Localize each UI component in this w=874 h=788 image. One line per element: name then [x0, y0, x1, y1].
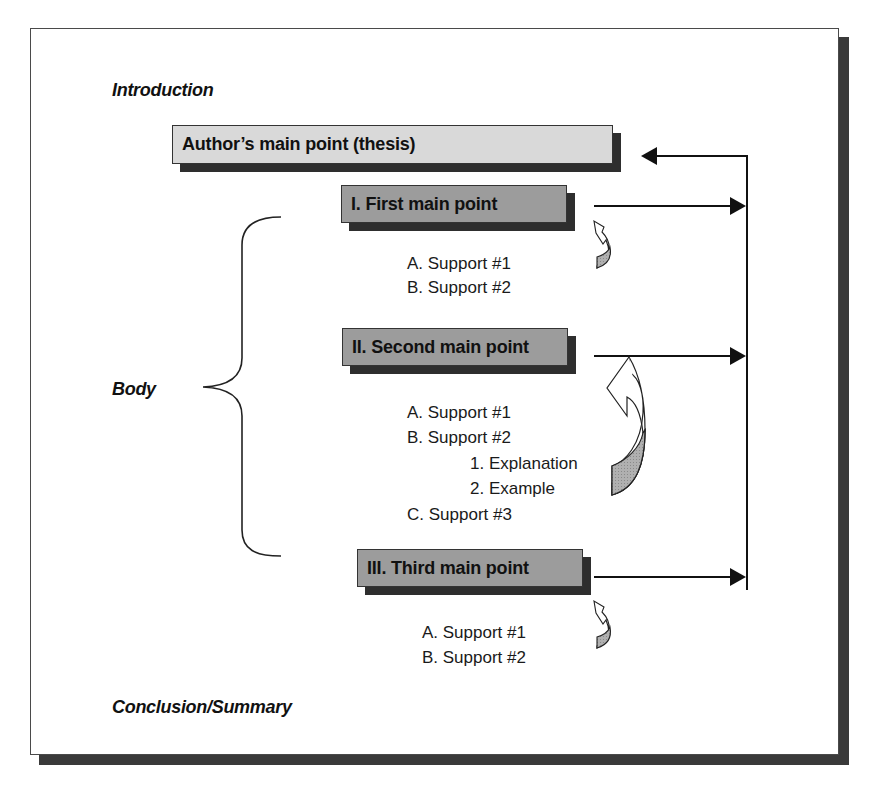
main-point-3-support-b: B. Support #2	[422, 646, 526, 670]
main-point-2-support-b: B. Support #2	[407, 426, 511, 450]
main-point-1-support-a: A. Support #1	[407, 252, 511, 276]
main-point-3-box: III. Third main point	[357, 549, 583, 587]
main-point-2-example: 2. Example	[470, 477, 555, 501]
main-point-2-label: II. Second main point	[352, 337, 529, 358]
thesis-box: Author’s main point (thesis)	[172, 125, 613, 164]
main-point-2-support-a: A. Support #1	[407, 401, 511, 425]
main-point-1-label: I. First main point	[351, 194, 497, 215]
section-label-introduction: Introduction	[112, 80, 213, 101]
main-point-3-label: III. Third main point	[367, 558, 529, 579]
main-point-1-box: I. First main point	[341, 185, 567, 223]
main-point-2-explanation: 1. Explanation	[470, 452, 578, 476]
thesis-label: Author’s main point (thesis)	[182, 134, 415, 155]
section-label-conclusion: Conclusion/Summary	[112, 697, 292, 718]
main-point-2-support-c: C. Support #3	[407, 503, 512, 527]
section-label-body: Body	[112, 379, 156, 400]
main-point-1-support-b: B. Support #2	[407, 276, 511, 300]
main-point-3-support-a: A. Support #1	[422, 621, 526, 645]
main-point-2-box: II. Second main point	[342, 328, 568, 366]
